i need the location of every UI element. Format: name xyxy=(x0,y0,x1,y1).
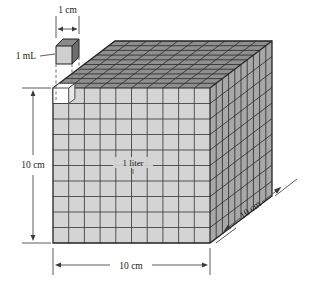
label-1-liter: 1 liter xyxy=(122,158,143,168)
dimension-width: 10 cm xyxy=(53,248,210,275)
label-width-10-cm: 10 cm xyxy=(119,261,143,271)
label-height-10-cm: 10 cm xyxy=(21,160,45,170)
dimension-height: 10 cm xyxy=(21,88,51,243)
label-1-ml: 1 mL xyxy=(16,51,37,61)
callout-1-ml: 1 mL xyxy=(16,51,55,61)
liter-cube-figure: 1 cm 1 mL 10 cm xyxy=(0,0,312,290)
small-cube-front-face xyxy=(56,46,72,64)
dimension-small-cube-edge: 1 cm xyxy=(56,5,79,38)
diagram-canvas: 1 cm 1 mL 10 cm xyxy=(0,0,312,290)
small-cube xyxy=(56,39,79,64)
label-1-cm: 1 cm xyxy=(58,5,77,15)
